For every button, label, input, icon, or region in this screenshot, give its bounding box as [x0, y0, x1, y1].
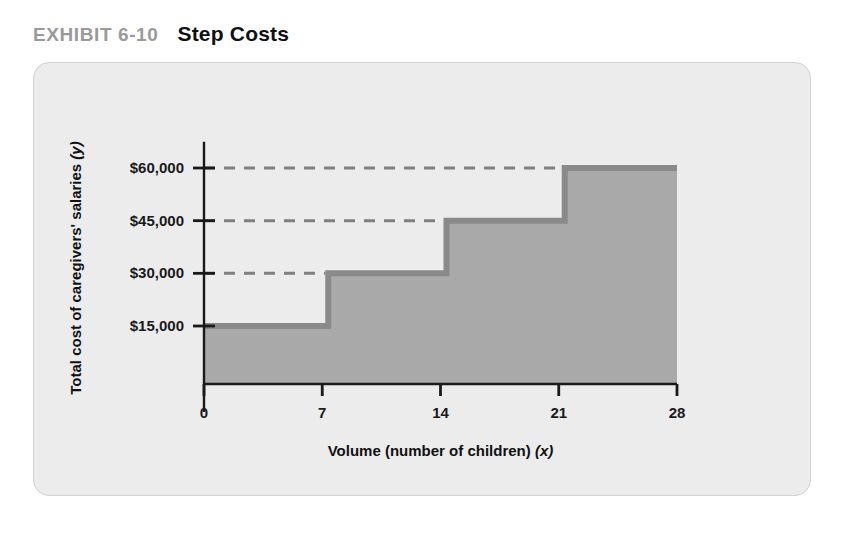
y-axis-tick-label: $45,000 [130, 212, 184, 229]
exhibit-number-label: EXHIBIT 6-10 [33, 24, 158, 46]
exhibit-title-label: Step Costs [177, 22, 289, 46]
y-axis-tick-labels: $15,000$30,000$45,000$60,000 [130, 159, 184, 334]
exhibit-screenshot: EXHIBIT 6-10 Step Costs $15,000$3 [0, 0, 844, 546]
x-axis-tick-label: 21 [550, 404, 567, 421]
x-axis-title-text: Volume (number of children) (x) [328, 442, 554, 459]
y-axis-tick-label: $15,000 [130, 317, 184, 334]
x-axis-tick-label: 0 [200, 404, 208, 421]
x-axis-tick-label: 7 [318, 404, 326, 421]
x-axis-ticks [204, 384, 677, 396]
y-axis-title: Total cost of caregivers' salaries (y) [67, 141, 84, 394]
y-axis-title-text: Total cost of caregivers' salaries (y) [67, 141, 84, 394]
y-axis-tick-label: $60,000 [130, 159, 184, 176]
step-cost-chart: $15,000$30,000$45,000$60,000 07142128 To… [34, 63, 812, 497]
x-axis-tick-label: 14 [432, 404, 449, 421]
figure-card: $15,000$30,000$45,000$60,000 07142128 To… [33, 62, 811, 496]
x-axis-title: Volume (number of children) (x) [328, 442, 554, 459]
y-axis-tick-label: $30,000 [130, 264, 184, 281]
chart-canvas: $15,000$30,000$45,000$60,000 07142128 To… [34, 63, 812, 497]
x-axis-tick-label: 28 [669, 404, 686, 421]
exhibit-heading: EXHIBIT 6-10 Step Costs [33, 22, 289, 52]
x-axis-tick-labels: 07142128 [200, 404, 686, 421]
